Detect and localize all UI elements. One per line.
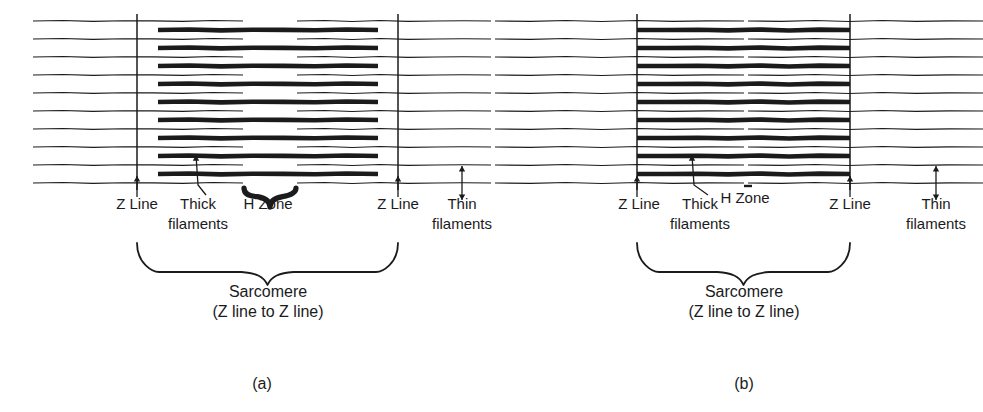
panel-b-thick-filament bbox=[637, 30, 850, 31]
panel-a-thin-filament bbox=[33, 21, 243, 22]
panel-a-thick-filament bbox=[158, 138, 378, 139]
panel-a-thin-filament bbox=[297, 75, 491, 76]
panel-b-thin-filament bbox=[748, 165, 983, 166]
panel-b-thin-filament bbox=[495, 39, 744, 40]
panel-a-thin-filament bbox=[297, 93, 491, 94]
panel-b-thin-filament bbox=[495, 75, 744, 76]
panel-b-thin-filament bbox=[495, 111, 744, 112]
panel-a-thin-filament bbox=[297, 129, 491, 130]
panel-b-letter: (b) bbox=[734, 375, 754, 392]
panel-a-thin-filament bbox=[33, 111, 243, 112]
panel-b-thin-filament bbox=[495, 57, 744, 58]
panel-a-thick-filament bbox=[158, 30, 378, 31]
panel-a-thick-filament bbox=[158, 102, 378, 103]
panel-b-thin-filament bbox=[748, 21, 983, 22]
panel-b-z-line-right-arrow-head bbox=[847, 176, 853, 182]
panel-b-thick-filament bbox=[637, 48, 850, 49]
figure-canvas: Z LineZ LineThickfilamentsH ZoneThinfila… bbox=[0, 0, 983, 412]
panel-a-letter: (a) bbox=[252, 375, 272, 392]
panel-a-thin-filament bbox=[33, 39, 243, 40]
panel-b-thin-filament bbox=[748, 39, 983, 40]
panel-a-thin-filament bbox=[33, 147, 243, 148]
panel-b-thick-filament bbox=[637, 174, 850, 175]
panel-a-thin-filament bbox=[33, 75, 243, 76]
panel-b-sarcomere-label: Sarcomere bbox=[705, 283, 783, 300]
panel-a-thin-filament bbox=[33, 165, 243, 166]
panel-a-thick-filament bbox=[158, 156, 378, 157]
panel-a-thick-filament bbox=[158, 48, 378, 49]
panel-a-h-zone-label: H Zone bbox=[243, 195, 292, 212]
panel-b-thin-filament bbox=[495, 147, 744, 148]
panel-a-sarcomere-label: Sarcomere bbox=[229, 283, 307, 300]
panel-a-thin-filament bbox=[297, 165, 491, 166]
panel-a-thin-filaments-arrow-head-up bbox=[459, 166, 465, 172]
panel-b-z-line-left-label: Z Line bbox=[618, 195, 660, 212]
panel-b-thin-filament bbox=[748, 183, 983, 184]
panel-b-thin-filament bbox=[748, 147, 983, 148]
panel-b-thin-filaments-label-2: filaments bbox=[906, 215, 966, 232]
panel-b-thin-filament bbox=[748, 75, 983, 76]
panel-a-thin-filament bbox=[33, 57, 243, 58]
panel-a-sarcomere-sublabel: (Z line to Z line) bbox=[212, 303, 323, 320]
panel-b-thin-filament bbox=[748, 129, 983, 130]
panel-a-thin-filament bbox=[33, 183, 243, 184]
panel-b-thick-filament bbox=[637, 102, 850, 103]
panel-b-h-zone-label: H Zone bbox=[720, 189, 769, 206]
panel-b-thick-filament bbox=[637, 66, 850, 67]
panel-b-thin-filament bbox=[748, 93, 983, 94]
panel-b-thin-filaments-label: Thin bbox=[921, 195, 950, 212]
sarcomere-figure: Z LineZ LineThickfilamentsH ZoneThinfila… bbox=[0, 0, 983, 412]
panel-b-thin-filaments-arrow-head-up bbox=[933, 166, 939, 172]
panel-b-sarcomere-brace bbox=[637, 243, 850, 285]
panel-b-thin-filament bbox=[748, 111, 983, 112]
panel-a-thick-filaments-label: Thick bbox=[180, 195, 216, 212]
panel-a-thin-filaments-label-2: filaments bbox=[432, 215, 492, 232]
panel-a-thin-filament bbox=[297, 21, 491, 22]
panel-a-thin-filament bbox=[297, 147, 491, 148]
panel-b-thin-filament bbox=[495, 183, 744, 184]
panel-a-thick-filament bbox=[158, 120, 378, 121]
panel-a-thin-filament bbox=[33, 129, 243, 130]
panel-a-z-line-left-arrow-head bbox=[134, 176, 140, 182]
panel-b-thick-filament bbox=[637, 156, 850, 157]
panel-b-thin-filament bbox=[495, 129, 744, 130]
panel-a-thin-filament bbox=[33, 93, 243, 94]
panel-a-thin-filament bbox=[297, 57, 491, 58]
panel-a-sarcomere-brace bbox=[137, 243, 398, 285]
panel-b-sarcomere-sublabel: (Z line to Z line) bbox=[688, 303, 799, 320]
panel-a-thick-filament bbox=[158, 84, 378, 85]
panel-a-thin-filaments-label: Thin bbox=[447, 195, 476, 212]
panel-a-z-line-right-arrow-head bbox=[395, 176, 401, 182]
panel-b-thick-filament bbox=[637, 120, 850, 121]
panel-b-thin-filament bbox=[495, 93, 744, 94]
panel-b-thick-filaments-label-2: filaments bbox=[670, 215, 730, 232]
panel-b-thick-filament bbox=[637, 84, 850, 85]
panel-b-z-line-right-label: Z Line bbox=[829, 195, 871, 212]
panel-b-thin-filament bbox=[495, 21, 744, 22]
panel-b-thin-filament bbox=[495, 165, 744, 166]
panel-a-thick-filaments-label-2: filaments bbox=[168, 215, 228, 232]
panel-a-thick-filament bbox=[158, 66, 378, 67]
panel-b-thick-filament bbox=[637, 138, 850, 139]
panel-a-thick-filament bbox=[158, 174, 378, 175]
panel-a-thin-filament bbox=[297, 39, 491, 40]
panel-b-thick-filaments-label: Thick bbox=[682, 195, 718, 212]
panel-a-thin-filament bbox=[297, 111, 491, 112]
panel-b-z-line-left-arrow-head bbox=[634, 176, 640, 182]
panel-a-z-line-left-label: Z Line bbox=[116, 195, 158, 212]
panel-a-z-line-right-label: Z Line bbox=[377, 195, 419, 212]
panel-b-thin-filament bbox=[748, 57, 983, 58]
